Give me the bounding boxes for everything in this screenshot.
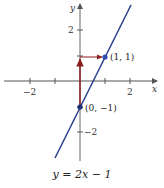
chart-canvas: −2 2 2 −2 x y (0, −1) (1, 1)	[0, 0, 164, 188]
y-axis-label: y	[69, 3, 76, 13]
point-label-0-neg1: (0, −1)	[85, 103, 117, 113]
point-label-1-1: (1, 1)	[110, 52, 134, 62]
chart-caption: y = 2x − 1	[0, 168, 164, 181]
y-tick-label-neg2: −2	[84, 127, 97, 137]
x-tick-label-2: 2	[127, 87, 133, 97]
point-1-1	[102, 54, 107, 59]
x-axis-label: x	[152, 84, 157, 94]
y-tick-label-2: 2	[68, 25, 74, 35]
point-0-neg1	[77, 104, 82, 109]
x-tick-label-neg2: −2	[23, 87, 36, 97]
